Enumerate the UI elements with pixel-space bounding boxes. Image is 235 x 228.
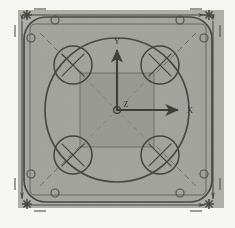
drawing-canvas: Y X Z: [0, 0, 235, 228]
extension-marker-bottom-left: [22, 199, 32, 209]
extension-marker-top-right: [204, 10, 214, 20]
extension-marker-bottom-right: [204, 199, 214, 209]
technical-drawing-svg: Y X Z: [0, 0, 235, 228]
y-axis-label: Y: [114, 36, 121, 46]
x-axis-label: X: [187, 105, 194, 115]
extension-marker-top-left: [22, 10, 32, 20]
z-axis-label: Z: [124, 100, 129, 109]
